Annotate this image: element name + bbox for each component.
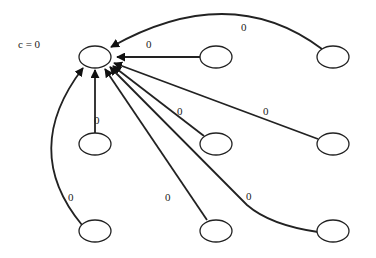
edge-label: 0: [241, 21, 247, 33]
node-bottom-middle: [200, 220, 232, 242]
node-center: [79, 46, 111, 68]
node-bottom-right: [317, 220, 349, 242]
graph-diagram: c = 0 0 0 0 0 0 0 0 0: [0, 0, 376, 258]
edge-label: 0: [165, 191, 171, 203]
edge-label: 0: [146, 38, 152, 50]
node-mid-middle: [200, 133, 232, 155]
node-mid-left: [79, 133, 111, 155]
edge-label: 0: [177, 105, 183, 117]
node-bottom-left: [79, 220, 111, 242]
edge-label: 0: [94, 114, 100, 126]
edge-top-right: [111, 14, 322, 49]
node-top-right: [317, 46, 349, 68]
counter-label: c = 0: [18, 38, 41, 50]
edge-label: 0: [246, 190, 252, 202]
edge-label: 0: [68, 191, 74, 203]
edge-label: 0: [263, 105, 269, 117]
node-top-middle: [200, 46, 232, 68]
node-mid-right: [317, 133, 349, 155]
